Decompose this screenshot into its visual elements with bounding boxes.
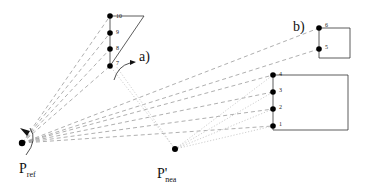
point-label-8: 8 <box>116 45 119 51</box>
object-b-top <box>319 28 350 58</box>
point-label-10: 10 <box>116 13 122 19</box>
point-label-1: 1 <box>279 121 282 127</box>
diagram-canvas: 10 9 8 7 6 5 4 3 2 1 a) b) Pref P'nea <box>0 0 366 189</box>
arrowhead-a-icon <box>130 60 136 65</box>
point-label-3: 3 <box>279 87 282 93</box>
point-label-2: 2 <box>279 104 282 110</box>
label-pref: Pref <box>19 161 36 179</box>
label-a: a) <box>139 49 150 65</box>
point-label-6: 6 <box>325 22 328 28</box>
point-label-9: 9 <box>116 29 119 35</box>
point-label-5: 5 <box>325 44 328 50</box>
label-b: b) <box>293 19 305 35</box>
rays-from-pnea <box>110 66 273 149</box>
point-label-7: 7 <box>116 60 119 66</box>
label-pnea: P'nea <box>157 166 177 184</box>
point-label-4: 4 <box>279 71 282 77</box>
object-b-bottom <box>273 75 348 130</box>
